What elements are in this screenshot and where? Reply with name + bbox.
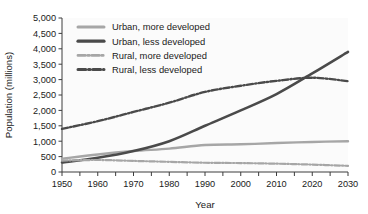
x-axis-tick-label: 1960: [88, 179, 108, 189]
x-axis-tick-label: 1970: [123, 179, 143, 189]
y-axis-tick-label: 4,500: [33, 29, 56, 39]
y-axis-tick-label: 3,000: [33, 75, 56, 85]
chart-canvas: 05001,0001,5002,0002,5003,0003,5004,0004…: [0, 0, 368, 214]
legend-label-2: Rural, more developed: [112, 50, 207, 61]
legend-label-3: Rural, less developed: [112, 64, 202, 75]
y-axis-tick-label: 5,000: [33, 13, 56, 23]
y-axis-tick-label: 4,000: [33, 44, 56, 54]
x-axis-tick-label: 1990: [195, 179, 215, 189]
y-axis-tick-label: 2,500: [33, 90, 56, 100]
legend-label-1: Urban, less developed: [112, 36, 205, 47]
y-axis-title: Population (millions): [3, 52, 14, 138]
x-axis-tick-label: 2020: [302, 179, 322, 189]
chart-figure: 05001,0001,5002,0002,5003,0003,5004,0004…: [0, 0, 368, 214]
x-axis-tick-label: 2000: [231, 179, 251, 189]
y-axis-tick-label: 2,000: [33, 106, 56, 116]
x-axis-tick-label: 1950: [52, 179, 72, 189]
y-axis-tick-label: 500: [41, 152, 56, 162]
x-axis-tick-label: 2010: [266, 179, 286, 189]
y-axis-tick-label: 3,500: [33, 60, 56, 70]
x-axis-tick-label: 2030: [338, 179, 358, 189]
x-axis-title: Year: [195, 199, 215, 210]
legend-label-0: Urban, more developed: [112, 21, 210, 32]
x-axis-tick-label: 1980: [159, 179, 179, 189]
y-axis-tick-label: 0: [51, 167, 56, 177]
y-axis-tick-label: 1,500: [33, 121, 56, 131]
y-axis-tick-label: 1,000: [33, 137, 56, 147]
